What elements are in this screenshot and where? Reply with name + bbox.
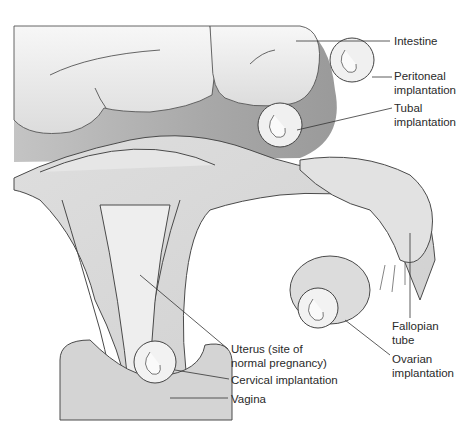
label-intestine: Intestine xyxy=(394,34,437,48)
label-fallopian-tube: Fallopiantube xyxy=(392,319,439,347)
embryo-tubal xyxy=(258,103,302,147)
label-cervical-implantation: Cervical implantation xyxy=(231,373,338,387)
label-tubal-implantation: Tubalimplantation xyxy=(394,101,456,129)
label-uterus: Uterus (site ofnormal pregnancy) xyxy=(231,342,327,370)
embryo-peritoneal xyxy=(330,38,374,82)
embryo-cervical xyxy=(134,341,176,383)
label-peritoneal-implantation: Peritonealimplantation xyxy=(394,69,456,97)
embryo-ovarian xyxy=(298,288,338,328)
label-ovarian-implantation: Ovarianimplantation xyxy=(392,352,454,380)
label-vagina: Vagina xyxy=(231,392,266,406)
fallopian-tube xyxy=(300,157,433,262)
